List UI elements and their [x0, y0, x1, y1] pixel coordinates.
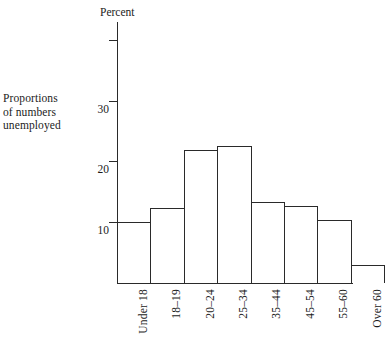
x-axis-label: 18–19: [171, 289, 183, 319]
x-axis-line: [117, 283, 353, 284]
x-axis-label: 45–54: [305, 289, 317, 319]
x-axis-label: Over 60: [372, 289, 384, 328]
y-tick-mark-30: [109, 101, 117, 102]
y-axis-title: Percent: [100, 6, 134, 19]
y-tick-mark-10: [109, 222, 117, 223]
bar: [284, 206, 318, 283]
bar: [150, 208, 184, 283]
bar: [117, 222, 151, 283]
bar: [251, 202, 285, 283]
bar: [317, 220, 351, 283]
x-axis-label: 35–44: [271, 289, 283, 319]
y-tick-mark-20: [109, 161, 117, 162]
bar: [351, 265, 385, 283]
side-caption-line-3: unemployed: [3, 119, 95, 133]
y-tick-label-30: 30: [83, 104, 109, 116]
bar: [184, 150, 218, 283]
x-axis-label: 20–24: [205, 289, 217, 319]
x-axis-label: 55–60: [338, 289, 350, 319]
bar: [217, 146, 251, 283]
y-tick-label-20: 20: [83, 164, 109, 176]
y-tick-label-10: 10: [83, 225, 109, 237]
side-caption-line-2: of numbers: [3, 106, 95, 120]
side-caption-line-1: Proportions: [3, 92, 95, 106]
y-tick-mark-40: [109, 40, 117, 41]
x-axis-label: Under 18: [138, 289, 150, 334]
side-caption: Proportions of numbers unemployed: [3, 92, 95, 133]
x-axis-label: 25–34: [238, 289, 250, 319]
